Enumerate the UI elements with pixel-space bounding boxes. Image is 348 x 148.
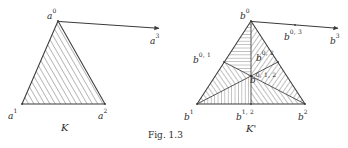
label-b0-sup: 0	[246, 7, 250, 14]
dot-b0	[250, 20, 252, 22]
dot-b2	[304, 103, 306, 105]
label-b1: b1	[184, 107, 194, 123]
label-b01: b0, 1	[193, 50, 211, 66]
label-a2-sup: 2	[103, 107, 107, 114]
label-a1: a1	[8, 106, 17, 122]
dot-b12	[250, 103, 252, 105]
label-b02-sup: 0, 2	[262, 49, 274, 56]
label-b12-sup: 1, 2	[242, 108, 254, 115]
label-b01-sup: 0, 1	[199, 51, 211, 58]
label-a0: a0	[47, 6, 56, 22]
figure-1-3	[0, 0, 348, 148]
label-b12: b1, 2	[236, 107, 254, 123]
label-b3-sup: 3	[336, 32, 340, 39]
label-b02: b0, 2	[256, 48, 274, 64]
figure-caption: Fig. 1.3	[148, 131, 183, 140]
label-a3: a3	[150, 31, 159, 47]
label-a2: a2	[98, 106, 107, 122]
label-b2: b2	[298, 107, 308, 123]
label-a1-sup: 1	[13, 107, 17, 114]
k-vertex-a1-dot	[21, 103, 23, 105]
complex-name-K: K	[61, 123, 68, 133]
label-b2-sup: 2	[304, 108, 308, 115]
k-vertex-a2-dot	[104, 103, 106, 105]
label-b1-sup: 1	[190, 108, 194, 115]
complex-name-Kprime: K'	[246, 124, 256, 134]
dot-b01	[223, 61, 225, 63]
dot-b03	[294, 24, 296, 26]
label-b012-sup: 0, 1, 2	[256, 71, 276, 78]
dot-b1	[196, 103, 198, 105]
k-edge-a0-a3	[59, 22, 159, 29]
k-vertex-a0-dot	[57, 20, 59, 22]
label-a3-sup: 3	[155, 32, 159, 39]
left-simplex-K	[21, 20, 159, 105]
k-hatch-fill	[22, 21, 105, 104]
dot-b02	[277, 61, 279, 63]
label-b03-sup: 0, 3	[290, 28, 302, 35]
label-b3: b3	[330, 31, 340, 47]
label-b012: b0, 1, 2	[250, 70, 276, 86]
label-b03: b0, 3	[284, 27, 302, 43]
label-a0-sup: 0	[52, 7, 56, 14]
label-b0: b0	[240, 6, 250, 22]
